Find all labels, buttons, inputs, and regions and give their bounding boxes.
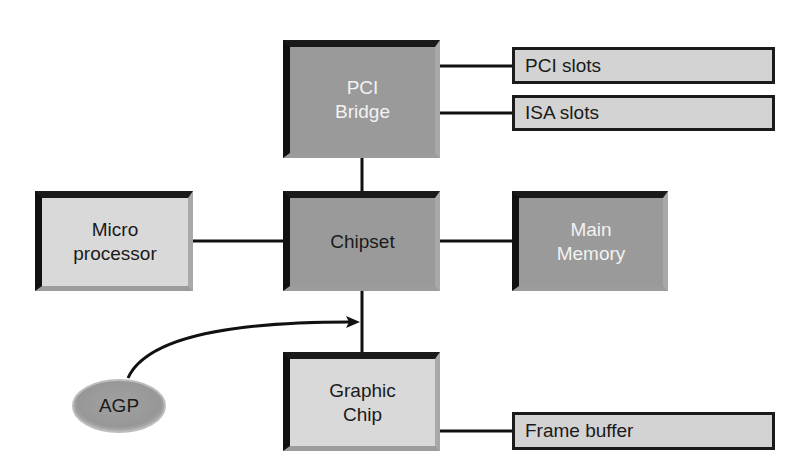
agp-node: AGP xyxy=(73,380,165,432)
pc-architecture-diagram: PCI Bridge PCI slots ISA slots Micro pro… xyxy=(0,0,808,472)
agp-label: AGP xyxy=(99,395,139,417)
